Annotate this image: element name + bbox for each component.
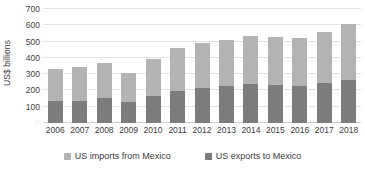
bar-segment-imports[interactable] (341, 24, 356, 80)
plot-area (43, 9, 361, 123)
bar-segment-exports[interactable] (317, 83, 332, 123)
legend-swatch-icon (64, 153, 71, 160)
x-axis-tick-label: 2015 (263, 125, 287, 135)
y-axis-title-label: US$ billions (2, 40, 12, 86)
bar-segment-exports[interactable] (219, 86, 234, 123)
legend-item[interactable]: US exports to Mexico (205, 151, 302, 161)
x-axis-tick-labels: 2006200720082009201020112012201320142015… (43, 125, 361, 139)
bar-segment-imports[interactable] (292, 38, 307, 86)
bar-segment-exports[interactable] (195, 88, 210, 123)
bar-segment-imports[interactable] (121, 73, 136, 102)
legend-label: US imports from Mexico (75, 151, 171, 161)
x-axis-tick-label: 2018 (337, 125, 361, 135)
x-axis-tick-label: 2007 (67, 125, 91, 135)
bar-group[interactable] (292, 38, 307, 124)
bar-segment-exports[interactable] (243, 84, 258, 123)
bar-group[interactable] (97, 63, 112, 123)
legend-item[interactable]: US imports from Mexico (64, 151, 171, 161)
bar-segment-exports[interactable] (341, 80, 356, 123)
x-axis-tick-label: 2010 (141, 125, 165, 135)
y-axis-tick-label: 700 (26, 5, 40, 14)
bar-segment-exports[interactable] (72, 101, 87, 123)
bar-segment-exports[interactable] (268, 85, 283, 123)
x-axis-tick-label: 2006 (43, 125, 67, 135)
bar-segment-imports[interactable] (170, 48, 185, 91)
bar-segment-imports[interactable] (317, 32, 332, 83)
bar-group[interactable] (146, 59, 161, 123)
bar-segment-imports[interactable] (243, 36, 258, 84)
bar-segment-exports[interactable] (170, 91, 185, 123)
x-axis-tick-label: 2008 (92, 125, 116, 135)
y-axis-tick-label: 200 (26, 86, 40, 95)
bar-segment-exports[interactable] (48, 101, 63, 123)
bar-segment-exports[interactable] (146, 96, 161, 123)
bar-segment-imports[interactable] (72, 67, 87, 101)
y-axis-title: US$ billions (0, 0, 14, 126)
y-axis-tick-label: 400 (26, 54, 40, 63)
x-axis-tick-label: 2016 (288, 125, 312, 135)
bar-group[interactable] (341, 24, 356, 124)
bar-segment-exports[interactable] (292, 86, 307, 123)
bar-segment-imports[interactable] (97, 63, 112, 98)
y-axis-tick-labels: 7006005004003002001000 (14, 0, 42, 130)
bar-segment-imports[interactable] (146, 59, 161, 96)
bar-segment-imports[interactable] (268, 37, 283, 85)
stacked-bar-chart: US$ billions 7006005004003002001000 2006… (0, 0, 365, 176)
x-axis-tick-label: 2013 (214, 125, 238, 135)
legend-label: US exports to Mexico (216, 151, 302, 161)
bar-segment-exports[interactable] (97, 98, 112, 123)
x-axis-tick-label: 2017 (312, 125, 336, 135)
bar-group[interactable] (195, 43, 210, 123)
bar-group[interactable] (268, 37, 283, 123)
bar-group[interactable] (72, 67, 87, 124)
bar-series-container (43, 9, 361, 123)
y-axis-tick-label: 300 (26, 70, 40, 79)
bar-group[interactable] (219, 40, 234, 123)
x-axis-tick-label: 2014 (239, 125, 263, 135)
y-axis-tick-label: 100 (26, 103, 40, 112)
bar-group[interactable] (121, 73, 136, 123)
bar-group[interactable] (170, 48, 185, 123)
chart-legend: US imports from MexicoUS exports to Mexi… (0, 148, 365, 164)
bar-segment-imports[interactable] (48, 69, 63, 101)
bar-group[interactable] (317, 32, 332, 123)
y-axis-tick-label: 600 (26, 21, 40, 30)
legend-swatch-icon (205, 153, 212, 160)
bar-segment-imports[interactable] (195, 43, 210, 88)
bar-segment-exports[interactable] (121, 102, 136, 123)
y-axis-tick-label: 0 (35, 119, 40, 128)
y-axis-tick-label: 500 (26, 38, 40, 47)
bar-group[interactable] (48, 69, 63, 123)
x-axis-tick-label: 2009 (116, 125, 140, 135)
bar-segment-imports[interactable] (219, 40, 234, 86)
x-axis-tick-label: 2012 (190, 125, 214, 135)
bar-group[interactable] (243, 36, 258, 123)
x-axis-tick-label: 2011 (165, 125, 189, 135)
